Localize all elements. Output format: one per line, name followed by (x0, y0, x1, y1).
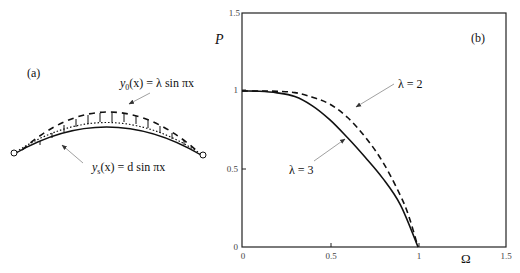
figure: (a) y0(x) = λ sin πx ys(x) = d sin (0, 0, 520, 273)
x-tick-1: 1 (417, 251, 422, 261)
distributed-load-icon (22, 112, 196, 150)
lambda-3-annotation: λ = 3 (289, 163, 314, 177)
ys-equation-label: ys(x) = d sin πx (91, 160, 165, 176)
lambda-2-arrow (356, 84, 394, 107)
ys-arrow (62, 145, 83, 163)
equilibrium-shape-ys-curve (16, 127, 201, 155)
series-lambda-3-solid (242, 91, 418, 247)
lambda-2-annotation: λ = 2 (398, 77, 423, 91)
x-tick-0.5: 0.5 (325, 251, 337, 261)
y-tick-0.5: 0.5 (227, 164, 239, 174)
series-lambda-2-dashed (242, 91, 418, 247)
panel-b-label: (b) (471, 31, 485, 45)
y-tick-1: 1 (234, 85, 239, 95)
y-tick-1.5: 1.5 (229, 8, 241, 18)
lambda-3-arrow (314, 139, 345, 161)
y-tick-0: 0 (234, 242, 239, 252)
y0-arrow (129, 93, 150, 104)
x-tick-1.5: 1.5 (500, 251, 512, 261)
y-axis-label: P (214, 32, 224, 47)
x-tick-0: 0 (241, 251, 246, 261)
panel-a: (a) y0(x) = λ sin πx ys(x) = d sin (11, 66, 206, 176)
y0-equation-label: y0(x) = λ sin πx (119, 76, 194, 92)
right-pin-support-icon (200, 152, 206, 158)
x-axis-label: Ω (461, 251, 471, 266)
panel-a-label: (a) (27, 66, 40, 80)
x-axis-ticks (331, 243, 419, 247)
plot-frame (242, 13, 506, 247)
panel-b-chart: 0 0.5 1 1.5 0 0.5 1 1.5 P Ω (b) λ = 2 λ … (214, 8, 512, 266)
left-pin-support-icon (11, 150, 17, 156)
